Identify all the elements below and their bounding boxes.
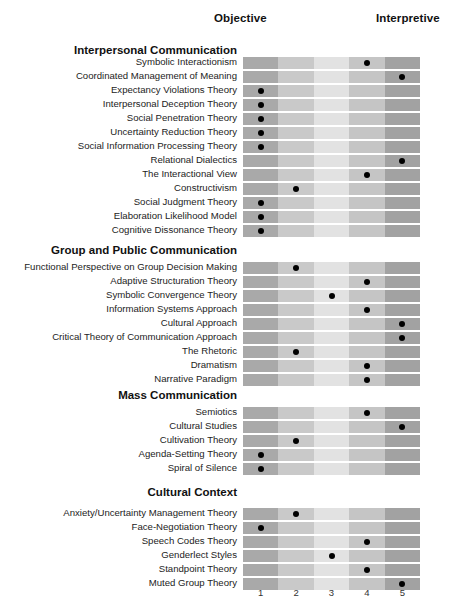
scale-cell-1 bbox=[243, 508, 278, 520]
theory-label: Muted Group Theory bbox=[149, 577, 237, 589]
position-marker bbox=[258, 102, 264, 108]
scale-strip bbox=[243, 435, 420, 447]
scale-tick-1: 1 bbox=[243, 586, 278, 600]
scale-cell-1 bbox=[243, 57, 278, 69]
position-marker bbox=[258, 466, 264, 472]
scale-cell-2 bbox=[278, 407, 313, 419]
scale-cell-1 bbox=[243, 155, 278, 167]
scale-strip bbox=[243, 99, 420, 111]
scale-strip bbox=[243, 113, 420, 125]
scale-cell-5 bbox=[385, 183, 420, 195]
scale-cell-5 bbox=[385, 550, 420, 562]
theory-row: Face-Negotiation Theory bbox=[0, 522, 454, 534]
theory-label: Face-Negotiation Theory bbox=[132, 521, 237, 533]
theory-row: Social Judgment Theory bbox=[0, 197, 454, 209]
scale-cell-3 bbox=[314, 374, 349, 386]
scale-cell-2 bbox=[278, 536, 313, 548]
theory-label: Cultural Approach bbox=[161, 317, 237, 329]
scale-cell-1 bbox=[243, 262, 278, 274]
scale-cell-2 bbox=[278, 522, 313, 534]
scale-cell-3 bbox=[314, 197, 349, 209]
scale-cell-4 bbox=[349, 318, 384, 330]
scale-cell-3 bbox=[314, 127, 349, 139]
scale-cell-2 bbox=[278, 57, 313, 69]
scale-cell-3 bbox=[314, 449, 349, 461]
scale-strip bbox=[243, 225, 420, 237]
scale-cell-3 bbox=[314, 318, 349, 330]
theory-row: Anxiety/Uncertainty Management Theory bbox=[0, 508, 454, 520]
scale-cell-1 bbox=[243, 550, 278, 562]
position-marker bbox=[364, 363, 370, 369]
theory-label: Cultural Studies bbox=[169, 420, 237, 432]
scale-strip bbox=[243, 374, 420, 386]
scale-cell-2 bbox=[278, 564, 313, 576]
theory-row: Coordinated Management of Meaning bbox=[0, 71, 454, 83]
scale-cell-2 bbox=[278, 71, 313, 83]
scale-cell-5 bbox=[385, 360, 420, 372]
position-marker bbox=[364, 307, 370, 313]
theory-label: Social Penetration Theory bbox=[127, 112, 237, 124]
theory-row: Functional Perspective on Group Decision… bbox=[0, 262, 454, 274]
scale-cell-4 bbox=[349, 197, 384, 209]
scale-cell-3 bbox=[314, 360, 349, 372]
scale-cell-2 bbox=[278, 113, 313, 125]
scale-cell-1 bbox=[243, 360, 278, 372]
position-marker bbox=[364, 172, 370, 178]
theory-label: Symbolic Interactionism bbox=[136, 56, 237, 68]
theory-row: Semiotics bbox=[0, 407, 454, 419]
scale-cell-2 bbox=[278, 463, 313, 475]
theory-row: Social Information Processing Theory bbox=[0, 141, 454, 153]
theory-label: Agenda-Setting Theory bbox=[139, 448, 238, 460]
theory-row: Cognitive Dissonance Theory bbox=[0, 225, 454, 237]
theory-row: The Rhetoric bbox=[0, 346, 454, 358]
scale-cell-4 bbox=[349, 85, 384, 97]
scale-cell-3 bbox=[314, 463, 349, 475]
scale-cell-2 bbox=[278, 127, 313, 139]
theory-row: Agenda-Setting Theory bbox=[0, 449, 454, 461]
theory-row: The Interactional View bbox=[0, 169, 454, 181]
position-marker bbox=[258, 130, 264, 136]
scale-cell-3 bbox=[314, 141, 349, 153]
scale-cell-2 bbox=[278, 99, 313, 111]
scale-cell-5 bbox=[385, 113, 420, 125]
scale-cell-1 bbox=[243, 183, 278, 195]
scale-cell-1 bbox=[243, 374, 278, 386]
scale-cell-1 bbox=[243, 290, 278, 302]
scale-cell-5 bbox=[385, 197, 420, 209]
scale-cell-2 bbox=[278, 360, 313, 372]
x-axis-scale: 12345 bbox=[243, 586, 420, 600]
theory-row: Elaboration Likelihood Model bbox=[0, 211, 454, 223]
scale-cell-2 bbox=[278, 211, 313, 223]
section-heading: Group and Public Communication bbox=[51, 244, 237, 256]
theory-label: Coordinated Management of Meaning bbox=[76, 70, 237, 82]
scale-strip bbox=[243, 318, 420, 330]
scale-strip bbox=[243, 141, 420, 153]
scale-cell-4 bbox=[349, 211, 384, 223]
scale-cell-5 bbox=[385, 463, 420, 475]
theory-row: Interpersonal Deception Theory bbox=[0, 99, 454, 111]
scale-cell-5 bbox=[385, 262, 420, 274]
theory-label: Spiral of Silence bbox=[168, 462, 237, 474]
scale-cell-3 bbox=[314, 71, 349, 83]
theory-row: Uncertainty Reduction Theory bbox=[0, 127, 454, 139]
scale-strip bbox=[243, 536, 420, 548]
theory-label: Standpoint Theory bbox=[159, 563, 237, 575]
scale-cell-5 bbox=[385, 169, 420, 181]
scale-cell-2 bbox=[278, 290, 313, 302]
theory-label: Semiotics bbox=[195, 406, 237, 418]
scale-strip bbox=[243, 85, 420, 97]
scale-cell-5 bbox=[385, 225, 420, 237]
position-marker bbox=[258, 228, 264, 234]
scale-strip bbox=[243, 276, 420, 288]
scale-strip bbox=[243, 522, 420, 534]
scale-tick-3: 3 bbox=[314, 586, 349, 600]
section-heading: Interpersonal Communication bbox=[74, 44, 237, 56]
position-marker bbox=[258, 88, 264, 94]
scale-cell-2 bbox=[278, 304, 313, 316]
scale-cell-3 bbox=[314, 183, 349, 195]
theory-label: Speech Codes Theory bbox=[142, 535, 237, 547]
position-marker bbox=[364, 279, 370, 285]
theory-row: Dramatism bbox=[0, 360, 454, 372]
theory-label: The Rhetoric bbox=[182, 345, 237, 357]
scale-cell-2 bbox=[278, 421, 313, 433]
